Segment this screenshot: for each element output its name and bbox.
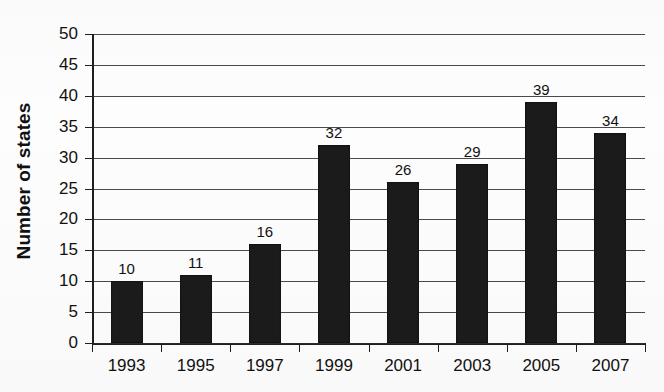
- x-tick-label-2005: 2005: [501, 356, 581, 376]
- gridline-20: [92, 219, 645, 220]
- bar-2003: [456, 164, 488, 343]
- y-tick-10: [85, 281, 94, 282]
- y-tick-label-10: 10: [38, 271, 78, 291]
- gridline-50: [92, 34, 645, 35]
- y-tick-35: [85, 127, 94, 128]
- y-tick-label-0: 0: [38, 333, 78, 353]
- bar-1993: [111, 281, 143, 343]
- x-tick-0: [92, 343, 93, 352]
- y-tick-label-30: 30: [38, 148, 78, 168]
- y-tick-40: [85, 96, 94, 97]
- x-tick-4: [369, 343, 370, 352]
- bar-1995: [180, 275, 212, 343]
- y-tick-label-15: 15: [38, 240, 78, 260]
- gridline-45: [92, 65, 645, 66]
- gridline-25: [92, 189, 645, 190]
- bar-2001: [387, 182, 419, 343]
- bar-1999: [318, 145, 350, 343]
- y-tick-label-50: 50: [38, 24, 78, 44]
- y-tick-15: [85, 250, 94, 251]
- x-tick-2: [230, 343, 231, 352]
- x-tick-label-1997: 1997: [225, 356, 305, 376]
- y-tick-50: [85, 34, 94, 35]
- bar-2005: [525, 102, 557, 343]
- x-tick-6: [507, 343, 508, 352]
- bar-value-1999: 32: [299, 124, 369, 141]
- x-tick-3: [299, 343, 300, 352]
- y-tick-20: [85, 219, 94, 220]
- y-tick-label-20: 20: [38, 209, 78, 229]
- bar-value-1993: 10: [92, 260, 162, 277]
- y-axis-title: Number of states: [13, 71, 35, 291]
- y-tick-label-45: 45: [38, 55, 78, 75]
- y-tick-label-5: 5: [38, 302, 78, 322]
- x-tick-label-2001: 2001: [363, 356, 443, 376]
- bar-2007: [594, 133, 626, 343]
- gridline-15: [92, 250, 645, 251]
- y-tick-label-40: 40: [38, 86, 78, 106]
- y-tick-5: [85, 312, 94, 313]
- bar-value-2005: 39: [506, 81, 576, 98]
- y-tick-30: [85, 158, 94, 159]
- x-tick-end: [645, 343, 646, 352]
- bar-value-2001: 26: [368, 161, 438, 178]
- bar-value-2007: 34: [575, 112, 645, 129]
- bar-value-1997: 16: [230, 223, 300, 240]
- x-tick-label-1995: 1995: [156, 356, 236, 376]
- y-tick-25: [85, 189, 94, 190]
- bar-value-1995: 11: [161, 254, 231, 271]
- gridline-5: [92, 312, 645, 313]
- x-tick-1: [161, 343, 162, 352]
- x-tick-label-2007: 2007: [570, 356, 650, 376]
- x-tick-5: [438, 343, 439, 352]
- x-tick-label-2003: 2003: [432, 356, 512, 376]
- bar-value-2003: 29: [437, 143, 507, 160]
- y-tick-label-35: 35: [38, 117, 78, 137]
- gridline-30: [92, 158, 645, 159]
- bar-chart: Number of states 05101520253035404550 10…: [0, 0, 664, 392]
- y-tick-label-25: 25: [38, 179, 78, 199]
- gridline-10: [92, 281, 645, 282]
- plot-area: 05101520253035404550 1011163226293934 19…: [92, 34, 645, 343]
- y-tick-45: [85, 65, 94, 66]
- bar-1997: [249, 244, 281, 343]
- x-tick-label-1993: 1993: [87, 356, 167, 376]
- x-tick-label-1999: 1999: [294, 356, 374, 376]
- x-tick-7: [576, 343, 577, 352]
